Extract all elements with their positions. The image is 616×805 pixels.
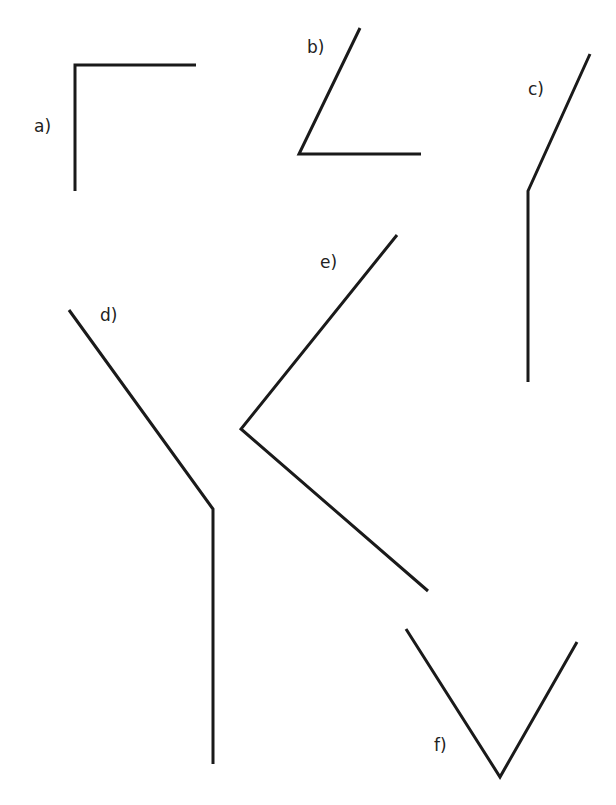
angle-e-arms	[241, 235, 428, 591]
angle-c: c)	[528, 54, 590, 382]
angle-c-label: c)	[528, 79, 544, 99]
angle-f-label: f)	[434, 735, 447, 755]
angle-a-arms	[75, 65, 196, 191]
angles-diagram: a) b) c) d) e) f)	[0, 0, 616, 805]
angle-d: d)	[69, 305, 213, 764]
angle-c-arms	[528, 54, 590, 382]
angle-f: f)	[406, 629, 577, 777]
angle-a: a)	[34, 65, 196, 191]
angle-e: e)	[241, 235, 428, 591]
angle-d-arms	[69, 310, 213, 764]
angle-a-label: a)	[34, 116, 51, 136]
angle-d-label: d)	[100, 305, 117, 325]
angle-f-arms	[406, 629, 577, 777]
angle-e-label: e)	[320, 252, 337, 272]
angle-b-label: b)	[307, 37, 324, 57]
angle-b: b)	[299, 28, 421, 154]
